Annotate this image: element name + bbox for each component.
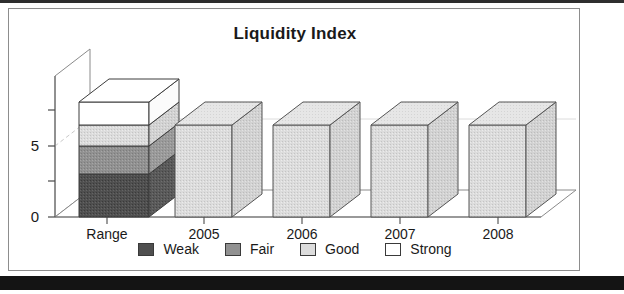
legend-item-strong[interactable]: Strong — [385, 241, 451, 257]
scan-artifact-bottom-bar — [0, 276, 624, 294]
y-axis-ticks — [48, 110, 55, 217]
x-category-label-2005: 2005 — [172, 226, 236, 242]
bar-2008-front — [469, 125, 526, 217]
bar-segment-good-front — [79, 125, 149, 146]
legend-label-good: Good — [325, 241, 359, 257]
bar-2008[interactable] — [469, 102, 556, 217]
bar-2005[interactable] — [175, 102, 262, 217]
chart-panel: Liquidity Index — [8, 8, 580, 271]
bar-segment-fair-front — [79, 146, 149, 174]
legend-swatch-strong-icon — [385, 243, 401, 256]
chart-legend: Weak Fair Good Strong — [9, 241, 581, 257]
bar-2005-front — [175, 125, 232, 217]
bar-segment-strong-front — [79, 102, 149, 125]
x-axis-ticks — [107, 217, 498, 224]
x-category-label-2007: 2007 — [368, 226, 432, 242]
legend-swatch-good-icon — [300, 243, 316, 256]
legend-label-weak: Weak — [163, 241, 199, 257]
scan-artifact-top-bar — [0, 0, 624, 3]
bar-2007-front — [371, 125, 428, 217]
bar-segment-weak-front — [79, 174, 149, 217]
legend-item-good[interactable]: Good — [300, 241, 359, 257]
legend-swatch-weak-icon — [138, 243, 154, 256]
bar-2006-front — [273, 125, 330, 217]
legend-label-strong: Strong — [410, 241, 451, 257]
x-category-label-range: Range — [75, 226, 139, 242]
bar-range-stack[interactable] — [79, 79, 179, 217]
x-category-label-2006: 2006 — [270, 226, 334, 242]
bar-2006[interactable] — [273, 102, 360, 217]
legend-item-fair[interactable]: Fair — [225, 241, 274, 257]
y-tick-label-0: 0 — [17, 208, 39, 225]
legend-label-fair: Fair — [250, 241, 274, 257]
bar-2007[interactable] — [371, 102, 458, 217]
y-tick-label-5: 5 — [17, 137, 39, 154]
legend-swatch-fair-icon — [225, 243, 241, 256]
x-category-label-2008: 2008 — [466, 226, 530, 242]
legend-item-weak[interactable]: Weak — [138, 241, 199, 257]
